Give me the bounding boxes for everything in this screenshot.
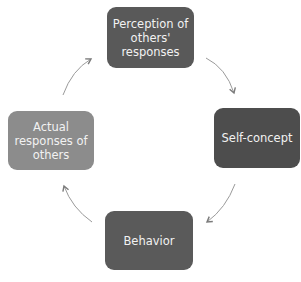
node-label-line: Perception of [113,17,189,31]
arrow-perception-to-self-concept [206,58,234,93]
node-behavior: Behavior [105,211,193,270]
arrow-behavior-to-actual-responses [64,186,92,222]
node-label-line: Self-concept [222,131,293,145]
node-label-line: Behavior [123,234,174,248]
node-actual-responses-of-others: Actual responses of others [8,111,94,170]
arrow-actual-responses-to-perception [63,59,91,95]
node-label-line: others [15,148,88,162]
arrow-self-concept-to-behavior [207,184,235,222]
node-label-line: responses of [15,134,88,148]
node-label-line: others' [113,31,189,45]
node-perception-of-others-responses: Perception of others' responses [107,7,194,68]
node-label-line: responses [113,45,189,59]
node-label-line: Actual [15,120,88,134]
node-self-concept: Self-concept [214,108,300,168]
